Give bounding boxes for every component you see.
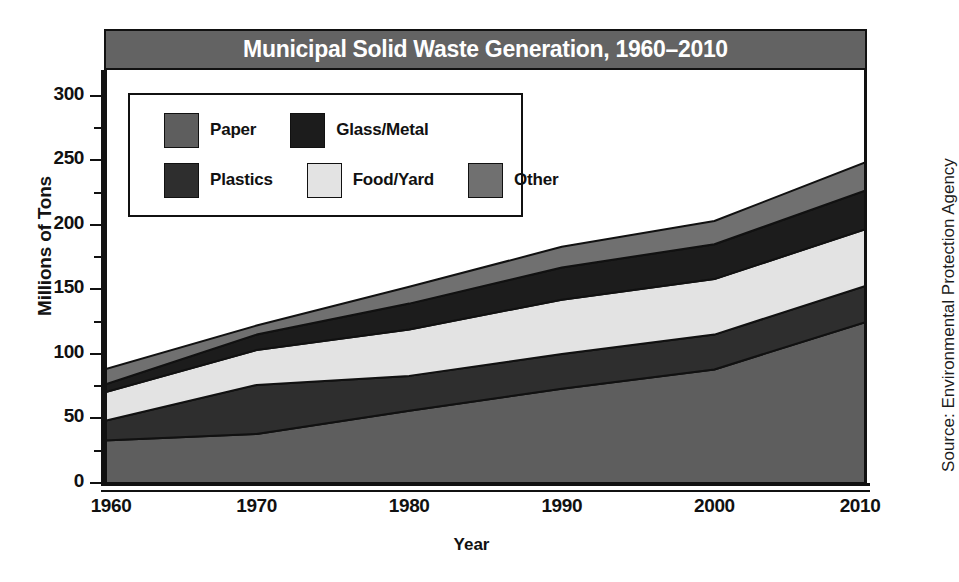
legend-swatch-icon (290, 113, 325, 148)
y-tick-minor (94, 385, 103, 387)
x-axis-line (101, 483, 870, 486)
source-credit: Source: Environmental Protection Agency (939, 145, 959, 485)
x-axis-baseline-rule (101, 490, 870, 492)
legend-swatch-icon (307, 163, 342, 198)
y-axis-line (101, 70, 104, 486)
chart-title-bar: Municipal Solid Waste Generation, 1960–2… (104, 29, 867, 70)
x-tick-label: 1980 (364, 495, 454, 517)
legend-label: Glass/Metal (336, 120, 428, 140)
x-tick-label: 2000 (669, 495, 759, 517)
y-tick-minor (94, 450, 103, 452)
y-tick-major (90, 482, 103, 484)
x-tick-label: 1970 (212, 495, 302, 517)
y-tick-label: 300 (26, 83, 84, 105)
legend-item-paper: Paper (164, 113, 256, 148)
x-axis-title: Year (0, 535, 943, 555)
legend-label: Other (514, 170, 558, 190)
y-tick-major (90, 224, 103, 226)
y-tick-minor (94, 127, 103, 129)
x-tick-label: 1960 (66, 495, 156, 517)
legend-item-glass-metal: Glass/Metal (290, 113, 428, 148)
legend-swatch-icon (164, 163, 199, 198)
legend-swatch-icon (164, 113, 199, 148)
legend-item-food-yard: Food/Yard (307, 163, 434, 198)
y-tick-major (90, 288, 103, 290)
legend-swatch-icon (468, 163, 503, 198)
legend-label: Plastics (210, 170, 273, 190)
y-tick-major (90, 159, 103, 161)
page-title: Municipal Solid Waste Generation, 1960–2… (243, 36, 728, 63)
y-tick-major (90, 95, 103, 97)
legend-row: PlasticsFood/YardOther (142, 155, 509, 205)
legend-label: Food/Yard (353, 170, 434, 190)
legend-item-plastics: Plastics (164, 163, 273, 198)
legend-item-other: Other (468, 163, 558, 198)
legend-label: Paper (210, 120, 256, 140)
y-tick-minor (94, 321, 103, 323)
x-tick-label: 2010 (815, 495, 905, 517)
y-tick-label: 0 (26, 470, 84, 492)
y-tick-major (90, 353, 103, 355)
x-tick-label: 1990 (517, 495, 607, 517)
y-tick-major (90, 417, 103, 419)
y-tick-minor (94, 192, 103, 194)
chart-legend: PaperGlass/MetalPlasticsFood/YardOther (128, 93, 523, 217)
y-tick-minor (94, 256, 103, 258)
legend-row: PaperGlass/Metal (142, 105, 509, 155)
y-tick-label: 50 (26, 405, 84, 427)
y-axis-title: Millions of Tons (34, 126, 56, 366)
